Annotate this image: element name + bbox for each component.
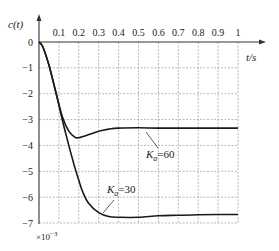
y-axis-label: c(t) [8, 18, 24, 31]
y-tick-label: 0 [28, 37, 33, 48]
x-axis-label: t/s [246, 51, 256, 63]
x-tick-label: 0.1 [53, 27, 66, 38]
x-tick-label: 0.2 [73, 27, 86, 38]
y-tick-labels: 0−1−2−3−4−5−6−7 [22, 37, 33, 229]
x-axis-arrow-icon [259, 40, 266, 45]
y-tick-label: −2 [22, 88, 33, 99]
y-tick-label: −6 [22, 192, 33, 203]
x-tick-label: 1 [236, 27, 241, 38]
y-tick-label: −3 [22, 114, 33, 125]
axes [37, 14, 267, 224]
x-tick-labels: 0.10.20.30.40.50.60.70.80.91 [53, 27, 241, 38]
y-scale-note: ×10−3 [36, 230, 58, 242]
y-scale-exponent: −3 [50, 230, 58, 238]
y-tick-label: −7 [22, 218, 33, 229]
ka30-label-rest: =30 [118, 183, 136, 195]
x-tick-label: 0.4 [112, 27, 125, 38]
x-tick-label: 0.3 [92, 27, 105, 38]
x-tick-label: 0.6 [152, 27, 165, 38]
ka60-label-rest: =60 [157, 148, 175, 160]
step-response-chart: 0.10.20.30.40.50.60.70.80.91 0−1−2−3−4−5… [0, 0, 279, 251]
x-tick-label: 0.8 [192, 27, 205, 38]
y-tick-label: −5 [22, 166, 33, 177]
ka30-label: Ka=30 [106, 183, 136, 198]
ka60-label: Ka=60 [145, 148, 175, 163]
y-axis-arrow-icon [37, 14, 42, 21]
x-tick-label: 0.7 [172, 27, 185, 38]
x-tick-label: 0.9 [212, 27, 225, 38]
y-tick-label: −1 [22, 62, 33, 73]
y-tick-label: −4 [22, 140, 33, 151]
x-tick-label: 0.5 [132, 27, 145, 38]
ka30-leader-line [103, 200, 114, 213]
y-scale-base: ×10 [36, 232, 51, 242]
